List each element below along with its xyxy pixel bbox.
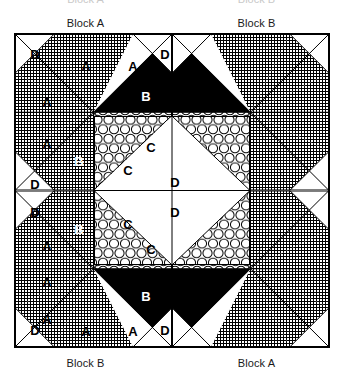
top-caption-row: Block A Block B: [0, 15, 342, 31]
clipped-caption-right: Block B: [171, 0, 342, 6]
caption-top-left: Block A: [0, 15, 171, 31]
bottom-caption-row: Block B Block A: [0, 355, 342, 371]
clipped-top-caption-row: Block A Block B: [0, 0, 342, 12]
clipped-caption-left: Block A: [0, 0, 171, 6]
centre-medallion: [94, 116, 250, 265]
quilt-artwork: [15, 34, 329, 347]
quilt-layout-frame: DAADABABCDCDDDBCACBAAAADD: [14, 33, 330, 348]
caption-bottom-right: Block A: [171, 355, 342, 371]
caption-bottom-left: Block B: [0, 355, 171, 371]
quilt-diagram-page: Block A Block B Block A Block B: [0, 0, 342, 381]
caption-top-right: Block B: [171, 15, 342, 31]
